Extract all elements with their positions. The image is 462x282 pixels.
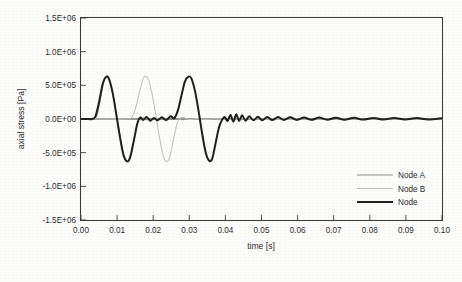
y-tick-label: 0.0E+00 (45, 115, 76, 124)
y-tick-label: 1.5E+06 (45, 14, 76, 23)
x-axis-title: time [s] (247, 241, 275, 251)
axial-stress-time-line-chart: 1.5E+061.0E+065.0E+050.0E+00-5.0E+05-1.0… (0, 0, 462, 282)
x-tick-label: 0.09 (398, 226, 414, 235)
chart-container: 1.5E+061.0E+065.0E+050.0E+00-5.0E+05-1.0… (0, 0, 462, 282)
x-tick-label: 0.03 (181, 226, 197, 235)
legend-label-node-b: Node B (398, 185, 426, 194)
y-tick-label: 1.0E+06 (45, 48, 76, 57)
legend-label-node-a: Node A (398, 171, 425, 180)
x-tick-label: 0.02 (145, 226, 161, 235)
legend-label-node: Node (398, 198, 418, 207)
chart-background (0, 0, 462, 282)
x-tick-label: 0.01 (109, 226, 125, 235)
x-tick-label: 0.08 (362, 226, 378, 235)
y-tick-label: -1.5E+06 (43, 216, 77, 225)
x-tick-label: 0.06 (290, 226, 306, 235)
x-tick-label: 0.10 (434, 226, 450, 235)
x-tick-label: 0.00 (73, 226, 89, 235)
x-tick-label: 0.05 (254, 226, 270, 235)
y-tick-label: -1.0E+06 (43, 182, 77, 191)
y-tick-label: -5.0E+05 (43, 149, 77, 158)
x-tick-label: 0.07 (326, 226, 342, 235)
y-tick-label: 5.0E+05 (45, 81, 76, 90)
x-tick-label: 0.04 (217, 226, 233, 235)
y-axis-title: axial stress [Pa] (16, 89, 26, 150)
